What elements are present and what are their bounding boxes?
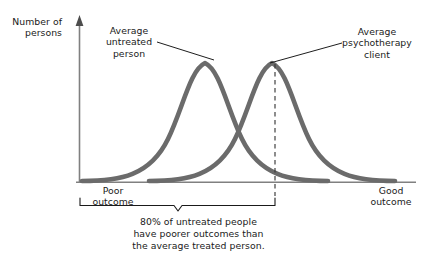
annotation-untreated: Averageuntreatedperson <box>96 25 162 59</box>
y-axis-label: Number ofpersons <box>2 16 62 39</box>
annotation-untreated-line3: person <box>113 48 145 59</box>
x-axis-label-good-line2: outcome <box>370 196 411 207</box>
x-axis-label-poor-outcome: Pooroutcome <box>82 185 144 208</box>
x-axis-label-good-outcome: Goodoutcome <box>360 185 422 208</box>
curve-psychotherapy <box>149 63 395 181</box>
x-axis-label-good-line1: Good <box>379 185 404 196</box>
x-axis-label-poor-line1: Poor <box>103 185 124 196</box>
annotation-untreated-line1: Average <box>110 25 149 36</box>
annotation-psychotherapy: Averagepsychotherapyclient <box>330 26 424 60</box>
leader-line-untreated <box>157 42 214 60</box>
y-axis-label-line1: Number of <box>12 16 62 27</box>
annotation-psychotherapy-line2: psychotherapy <box>342 37 412 48</box>
y-axis-label-line2: persons <box>25 27 62 38</box>
chart-caption: 80% of untreated peoplehave poorer outco… <box>96 216 301 253</box>
annotation-untreated-line2: untreated <box>106 36 152 47</box>
y-axis-arrow-icon <box>76 15 84 26</box>
chart-caption-line1: 80% of untreated people <box>140 216 257 227</box>
chart-caption-line2: have poorer outcomes than <box>133 228 263 239</box>
curve-untreated <box>82 63 328 181</box>
chart-figure: Number ofpersons Averageuntreatedperson … <box>0 0 425 260</box>
chart-caption-line3: the average treated person. <box>132 240 264 251</box>
annotation-psychotherapy-line1: Average <box>358 26 397 37</box>
x-axis-label-poor-line2: outcome <box>92 196 133 207</box>
annotation-psychotherapy-line3: client <box>364 49 390 60</box>
